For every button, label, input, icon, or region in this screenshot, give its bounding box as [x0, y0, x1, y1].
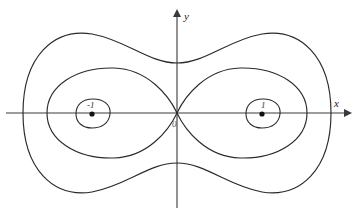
right-center-dot	[259, 111, 264, 116]
left-center-dot	[89, 111, 94, 116]
origin-label: 0	[172, 119, 177, 129]
left-center-label: -1	[87, 100, 95, 110]
x-axis-label: x	[333, 97, 339, 109]
phase-portrait-figure: -1 1 0 x y	[0, 0, 357, 214]
y-axis-label: y	[183, 10, 189, 22]
x-axis-arrow-icon	[344, 109, 352, 117]
phase-portrait-canvas: -1 1 0 x y	[0, 0, 357, 214]
y-axis-arrow-icon	[173, 9, 181, 17]
right-center-label: 1	[261, 100, 266, 110]
